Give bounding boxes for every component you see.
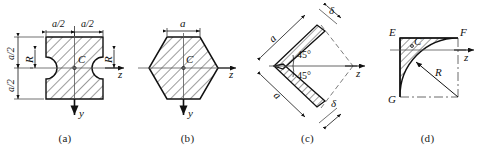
figure-d-centroid-label: C xyxy=(414,35,422,47)
figure-a-radius-left-label: R xyxy=(23,56,35,64)
figure-c-delta-upper-label: δ xyxy=(329,4,335,16)
figure-a-radius-right-label: R xyxy=(102,56,114,64)
figure-a-centroid-label: C xyxy=(78,53,86,65)
figure-c-drawing: z 45° 45° a a δ δ xyxy=(245,0,370,130)
figure-b-caption: (b) xyxy=(130,132,245,144)
figure-b-centroid-label: C xyxy=(186,53,194,65)
figure-b-axis-z-label: z xyxy=(228,68,234,80)
figure-d-point-e-label: E xyxy=(388,26,396,38)
figure-a-axis-y-label: y xyxy=(78,107,84,119)
figure-d-radius-label: R xyxy=(434,66,442,78)
figure-c-delta-lower-label: δ xyxy=(331,97,337,109)
figure-d: z R C E F G (d) xyxy=(370,0,485,148)
figure-b-drawing: C a z y xyxy=(130,0,245,130)
figure-c-angle-lower-label: 45° xyxy=(297,70,311,81)
figure-d-drawing: z R C E F G xyxy=(370,0,485,130)
figure-a-dim-left-upper-label: a/2 xyxy=(5,47,16,60)
figure-a-axis-z-label: z xyxy=(117,68,123,80)
figure-d-caption: (d) xyxy=(370,132,485,144)
figure-c: z 45° 45° a a δ δ (c) xyxy=(245,0,370,148)
figure-b: C a z y (b) xyxy=(130,0,245,148)
figure-a-drawing: C a/2 a/2 a/2 a/2 R R z y xyxy=(0,0,130,130)
figure-c-dim-upper-leg-label: a xyxy=(266,32,279,45)
figure-c-caption: (c) xyxy=(245,132,370,144)
figure-c-angle-upper-label: 45° xyxy=(297,49,311,60)
figure-b-dim-top-label: a xyxy=(180,17,186,29)
figure-a: C a/2 a/2 a/2 a/2 R R z y (a) xyxy=(0,0,130,148)
figure-c-upper-leg xyxy=(274,25,325,69)
figure-c-axis-z-label: z xyxy=(355,67,361,79)
figure-c-ext-delta-lower xyxy=(319,108,337,123)
figure-c-angle-arc-lower xyxy=(293,66,294,77)
figure-c-dim-delta-lower-line xyxy=(327,114,341,126)
figure-a-dim-left-lower-label: a/2 xyxy=(5,79,16,92)
figure-a-dim-top-right-label: a/2 xyxy=(81,18,94,29)
figure-a-dim-top-left-label: a/2 xyxy=(52,18,65,29)
figure-plate: C a/2 a/2 a/2 a/2 R R z y (a) xyxy=(0,0,485,148)
figure-d-axis-z-label: z xyxy=(463,51,469,63)
figure-d-point-g-label: G xyxy=(388,93,396,105)
figure-c-ext-delta-upper xyxy=(319,9,337,24)
figure-b-axis-y-label: y xyxy=(187,107,193,119)
figure-d-fillet-area xyxy=(400,38,458,97)
figure-a-caption: (a) xyxy=(0,132,130,144)
figure-d-point-f-label: F xyxy=(459,26,467,38)
